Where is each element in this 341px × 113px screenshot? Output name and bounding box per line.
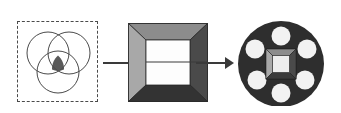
perforated-disc-panel [237, 18, 325, 106]
perforated-disc-svg [237, 18, 325, 106]
connector-venn-to-frame [103, 62, 129, 64]
disc-hole-bottom [272, 84, 291, 103]
arrow-head-icon [225, 57, 234, 69]
connector-frame-to-disc-line [196, 62, 227, 64]
venn-diagram-svg [18, 22, 97, 101]
process-diagram-figure [0, 0, 341, 113]
disc-hole-upper-right [298, 40, 317, 59]
disc-hole-lower-left [248, 71, 267, 90]
disc-hole-upper-left [246, 40, 265, 59]
disc-hole-top [272, 27, 291, 46]
disc-hole-lower-right [296, 71, 315, 90]
center-square-opening [273, 56, 290, 73]
venn-diagram-panel [17, 21, 98, 102]
center-beveled-square [266, 49, 296, 79]
connector-frame-to-disc [196, 55, 238, 71]
